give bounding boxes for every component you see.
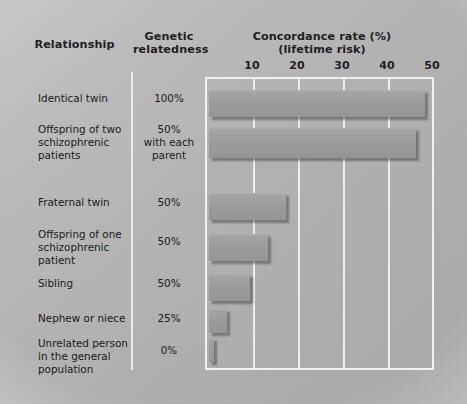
bar (209, 90, 425, 117)
row-label-relationship: Nephew or niece (38, 312, 133, 325)
bar (209, 193, 286, 220)
gridline-40 (388, 79, 390, 368)
gridline-20 (298, 79, 300, 368)
x-axis-tick-labels: 1020304050 (0, 59, 467, 75)
x-tick-40: 40 (379, 59, 395, 72)
bar (209, 338, 214, 362)
row-value-genetic-relatedness: 50% with each parent (133, 123, 205, 163)
bar (209, 274, 250, 301)
x-tick-30: 30 (334, 59, 350, 72)
row-value-genetic-relatedness: 50% (133, 196, 205, 209)
row-value-genetic-relatedness: 100% (133, 92, 205, 105)
row-label-relationship: Offspring of one schizophrenic patient (38, 228, 133, 268)
bar (209, 309, 227, 333)
row-label-relationship: Offspring of two schizophrenic patients (38, 123, 133, 163)
gridline-10 (253, 79, 255, 368)
plot-area (205, 77, 434, 370)
row-label-relationship: Unrelated person in the general populati… (38, 337, 133, 377)
row-value-genetic-relatedness: 0% (133, 344, 205, 357)
x-tick-10: 10 (244, 59, 260, 72)
chart-figure: Relationship Genetic relatedness Concord… (0, 0, 467, 404)
row-value-genetic-relatedness: 25% (133, 312, 205, 325)
row-value-genetic-relatedness: 50% (133, 235, 205, 248)
x-tick-20: 20 (289, 59, 305, 72)
gridline-30 (343, 79, 345, 368)
row-label-relationship: Identical twin (38, 92, 133, 105)
row-value-genetic-relatedness: 50% (133, 277, 205, 290)
bar (209, 234, 268, 261)
bar (209, 128, 416, 158)
row-label-relationship: Sibling (38, 277, 133, 290)
column-divider (131, 72, 133, 370)
column-header-relationship: Relationship (18, 39, 131, 52)
x-tick-50: 50 (424, 59, 440, 72)
row-label-relationship: Fraternal twin (38, 196, 133, 209)
column-header-genetic-relatedness: Genetic relatedness (133, 31, 205, 56)
column-header-concordance-rate: Concordance rate (%) (lifetime risk) (206, 31, 438, 56)
